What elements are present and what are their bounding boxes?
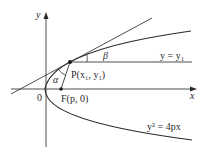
angle-alpha-arc (58, 69, 66, 76)
angle-beta-arc (87, 53, 88, 62)
tangent-line (11, 18, 152, 94)
y-axis-label: y (35, 9, 41, 20)
origin-label: 0 (37, 92, 42, 103)
x-axis (11, 87, 197, 92)
y-axis (44, 12, 49, 147)
angle-alpha-label: α (53, 74, 59, 85)
point-p (68, 60, 72, 64)
angle-beta-label: β (102, 50, 108, 61)
parabola-diagram: y x 0 P(x₁, y₁) F(p, 0) y = y₁ y² = 4px … (0, 0, 205, 152)
y-axis-arrow-icon (44, 12, 49, 19)
x-axis-label: x (189, 90, 195, 101)
point-f-label: F(p, 0) (61, 93, 88, 105)
point-f (59, 87, 63, 91)
curve-equation-label: y² = 4px (147, 121, 181, 132)
point-p-label: P(x₁, y₁) (71, 69, 105, 81)
horizontal-line-label: y = y₁ (160, 50, 184, 61)
